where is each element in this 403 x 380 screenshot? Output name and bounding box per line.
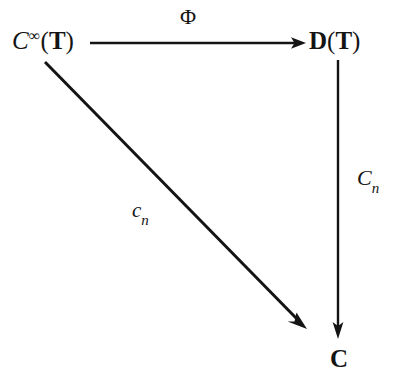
arrow-label-cn-subscript: n: [141, 212, 149, 228]
node-top-left-argument: T: [49, 27, 66, 54]
node-top-left-superscript: ∞: [29, 27, 41, 44]
arrow-label-phi: Φ: [180, 6, 196, 28]
arrow-layer: [0, 0, 403, 380]
node-top-right-close-paren: ): [352, 27, 360, 54]
node-bottom-base: C: [330, 345, 348, 372]
arrow-diagonal-shaft: [45, 62, 298, 320]
arrow-label-Cn: Cn: [357, 167, 379, 193]
arrow-label-Cn-base: C: [357, 165, 372, 190]
arrow-label-cn-base: c: [132, 198, 141, 222]
arrow-vertical-Cn: [333, 60, 344, 339]
arrow-label-Cn-subscript: n: [372, 180, 380, 196]
node-top-left-open-paren: (: [41, 27, 49, 54]
arrow-horizontal-phi: [90, 37, 306, 49]
node-top-left-close-paren: ): [66, 27, 74, 54]
node-top-right-base: D: [309, 27, 327, 54]
node-smooth-functions-on-torus: C∞(T): [12, 27, 74, 53]
node-distributions-on-torus: D(T): [309, 28, 360, 53]
node-top-left-base: C: [12, 27, 29, 54]
arrow-label-cn: cn: [132, 200, 149, 225]
arrow-diagonal-head: [288, 313, 308, 330]
arrow-diagonal-cn: [45, 62, 307, 329]
node-top-right-argument: T: [335, 27, 352, 54]
commutative-diagram: C∞(T) D(T) C Φ Cn cn: [0, 0, 403, 380]
node-complex-numbers: C: [330, 346, 348, 371]
